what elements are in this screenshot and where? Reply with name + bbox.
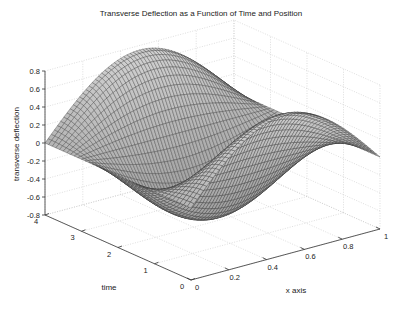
time-tick-label: 1 xyxy=(143,266,147,275)
z-tick-label: -0.6 xyxy=(27,193,40,202)
time-tick-label: 3 xyxy=(70,233,74,242)
x-axis-label: x axis xyxy=(286,286,306,295)
z-axis-label: transverse deflection xyxy=(12,107,21,181)
x-tick-label: 0.6 xyxy=(305,252,315,261)
z-tick-label: 0.4 xyxy=(30,103,40,112)
z-tick-label: 0.6 xyxy=(30,85,40,94)
x-tick-label: 0.2 xyxy=(230,273,240,282)
x-tick-label: 1 xyxy=(384,232,388,241)
surface-mesh xyxy=(45,48,380,220)
z-tick-label: -0.2 xyxy=(27,157,40,166)
x-tick-label: 0.8 xyxy=(343,242,353,251)
x-tick-label: 0.4 xyxy=(267,263,277,272)
time-tick-label: 0 xyxy=(180,282,184,291)
time-tick-label: 4 xyxy=(34,217,38,226)
z-tick-label: 0.8 xyxy=(30,67,40,76)
z-tick-label: 0 xyxy=(36,139,40,148)
z-tick-label: -0.4 xyxy=(27,175,40,184)
surface-plot: -0.8-0.6-0.4-0.200.20.40.60.80123400.20.… xyxy=(0,0,402,309)
time-tick-label: 2 xyxy=(107,250,111,259)
z-tick-label: 0.2 xyxy=(30,121,40,130)
x-tick-label: 0 xyxy=(195,283,199,292)
time-axis-label: time xyxy=(101,283,117,292)
